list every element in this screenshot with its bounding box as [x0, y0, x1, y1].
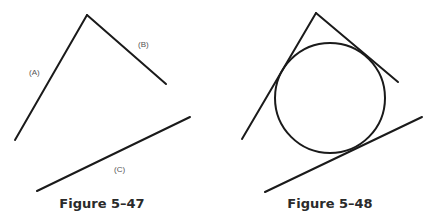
- label-c: (C): [114, 165, 125, 174]
- label-b: (B): [138, 40, 149, 49]
- caption-figure-5-48: Figure 5–48: [287, 196, 372, 211]
- tangent-circle: [275, 43, 385, 153]
- label-a: (A): [29, 68, 40, 77]
- figure-5-47: [15, 15, 190, 191]
- figure-5-48: [242, 13, 422, 192]
- tangent-line-right: [316, 13, 398, 82]
- line-a: [15, 15, 87, 140]
- line-b: [87, 15, 166, 84]
- tangent-line-bottom: [265, 117, 422, 192]
- line-c: [37, 117, 190, 191]
- caption-figure-5-47: Figure 5–47: [59, 196, 144, 211]
- diagram-canvas: (A) (B) (C): [0, 0, 432, 217]
